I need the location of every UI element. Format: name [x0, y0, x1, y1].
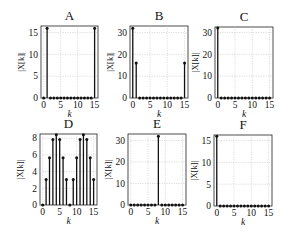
- stem-marker: [227, 97, 230, 100]
- stem-marker: [145, 97, 148, 100]
- y-tick-label: 15: [29, 28, 39, 38]
- y-tick-label: 10: [202, 158, 212, 168]
- stem-marker: [48, 156, 51, 159]
- stem-marker: [236, 205, 239, 208]
- x-tick-label: 15: [178, 207, 188, 217]
- x-tick-label: 15: [264, 208, 274, 218]
- stem-marker: [239, 205, 242, 208]
- stem-marker: [42, 97, 45, 100]
- stem-marker: [164, 204, 167, 207]
- stem-marker: [46, 27, 49, 30]
- y-tick-label: 2: [32, 184, 37, 194]
- stem-marker: [265, 97, 268, 100]
- y-tick-label: 10: [116, 179, 126, 189]
- y-tick-label: 15: [202, 136, 212, 146]
- stem-marker: [80, 97, 83, 100]
- stem-marker: [216, 27, 219, 30]
- stem-marker: [162, 97, 165, 100]
- x-tick-label: 15: [265, 100, 275, 110]
- stem-marker: [51, 138, 54, 141]
- y-axis-label: |X[k]|: [105, 52, 115, 72]
- stem-marker: [267, 205, 270, 208]
- stem-marker: [222, 205, 225, 208]
- stem-marker: [166, 97, 169, 100]
- y-axis-label: |X[k]|: [189, 160, 199, 180]
- stem-marker: [251, 97, 254, 100]
- stem-marker: [234, 97, 237, 100]
- panel-b: 0510150102030Bk|X[k]|: [105, 8, 190, 119]
- y-tick-label: 20: [118, 50, 128, 60]
- stem-marker: [136, 204, 139, 207]
- stem-marker: [220, 97, 223, 100]
- panel-title: A: [65, 8, 75, 23]
- stem-marker: [174, 204, 177, 207]
- stem-marker: [264, 205, 267, 208]
- stem-marker: [257, 205, 260, 208]
- stem-marker: [59, 97, 62, 100]
- axes-frame: [215, 27, 273, 98]
- stem-marker: [237, 97, 240, 100]
- axes-frame: [128, 134, 186, 205]
- y-tick-label: 0: [206, 201, 211, 211]
- y-tick-label: 4: [32, 167, 37, 177]
- stem-marker: [90, 97, 93, 100]
- stem-marker: [65, 178, 68, 181]
- y-tick-label: 10: [118, 71, 128, 81]
- stem-marker: [56, 97, 59, 100]
- stem-marker: [160, 204, 163, 207]
- stem-marker: [49, 97, 52, 100]
- stem-plot-grid: 051015051015Ak|X[k]|0510150102030Bk|X[k]…: [0, 0, 282, 235]
- x-tick-label: 5: [232, 208, 237, 218]
- stem-marker: [230, 97, 233, 100]
- stem-marker: [140, 204, 143, 207]
- stem-marker: [246, 205, 249, 208]
- stem-marker: [133, 204, 136, 207]
- x-tick-label: 15: [90, 100, 100, 110]
- x-tick-label: 10: [161, 207, 171, 217]
- stem-marker: [79, 138, 82, 141]
- panel-title: C: [240, 9, 249, 24]
- stem-marker: [180, 97, 183, 100]
- stem-marker: [219, 205, 222, 208]
- panel-e: 0510150102030Ek|X[k]|: [103, 116, 188, 226]
- stem-marker: [258, 97, 261, 100]
- stem-marker: [138, 97, 141, 100]
- y-tick-label: 20: [116, 157, 126, 167]
- x-tick-label: 15: [89, 207, 99, 217]
- axes-frame: [40, 134, 97, 205]
- stem-marker: [66, 97, 69, 100]
- stem-marker: [76, 97, 79, 100]
- x-tick-label: 5: [148, 100, 153, 110]
- y-tick-label: 5: [206, 180, 211, 190]
- stem-marker: [149, 97, 152, 100]
- stem-marker: [181, 204, 184, 207]
- panel-a: 051015051015Ak|X[k]|: [16, 8, 100, 119]
- stem-marker: [73, 97, 76, 100]
- stem-marker: [243, 205, 246, 208]
- stem-marker: [261, 97, 264, 100]
- stem-marker: [129, 204, 132, 207]
- x-tick-label: 5: [146, 207, 151, 217]
- panel-title: B: [155, 8, 164, 23]
- x-tick-label: 5: [58, 100, 63, 110]
- x-tick-label: 0: [41, 100, 46, 110]
- axes-frame: [214, 135, 272, 206]
- y-axis-label: |X[k]|: [16, 52, 26, 72]
- stem-marker: [62, 156, 65, 159]
- stem-marker: [147, 204, 150, 207]
- y-tick-label: 5: [33, 71, 38, 81]
- y-axis-label: |X[k]|: [103, 159, 113, 179]
- x-tick-label: 5: [233, 100, 238, 110]
- x-tick-label: 0: [214, 208, 219, 218]
- panel-f: 051015051015Fk|X[k]|: [189, 117, 274, 227]
- stem-marker: [223, 97, 226, 100]
- y-tick-label: 30: [116, 136, 126, 146]
- stem-marker: [83, 97, 86, 100]
- x-tick-label: 5: [57, 207, 62, 217]
- stem-marker: [157, 135, 160, 138]
- stem-marker: [167, 204, 170, 207]
- stem-marker: [58, 138, 61, 141]
- y-tick-label: 30: [118, 28, 128, 38]
- y-tick-label: 30: [203, 28, 213, 38]
- y-tick-label: 6: [32, 150, 37, 160]
